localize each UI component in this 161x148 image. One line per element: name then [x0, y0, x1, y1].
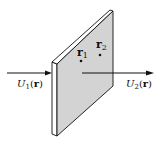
arrowhead-icon	[146, 71, 154, 76]
plate-diagram: r1 r2 U1(r) U2(r)	[0, 0, 161, 148]
plate-left-edge	[52, 62, 57, 136]
arrowhead-icon	[45, 71, 52, 76]
input-field-label: U1(r)	[17, 78, 43, 91]
point-r1-dot	[80, 60, 83, 63]
point-r2-dot	[99, 54, 102, 57]
output-field-label: U2(r)	[126, 78, 152, 91]
input-arrow	[7, 71, 52, 76]
